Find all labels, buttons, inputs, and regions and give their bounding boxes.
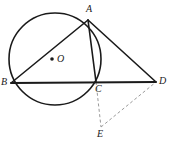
vertex-label-A: A [86,4,92,14]
segment-AC [88,20,96,82]
segment-BD [11,82,156,83]
center-dot-O [50,57,54,61]
segments-group [96,82,156,127]
circle-O [9,13,101,105]
vertex-label-C: C [95,84,102,94]
geometry-canvas [0,0,171,143]
vertex-label-D: D [159,76,166,86]
segment-ED [101,82,156,127]
solid-segments-group [11,20,156,83]
geometry-figure: A B C D E O [0,0,171,143]
vertex-label-E: E [97,129,103,139]
center-label-O: O [57,54,64,64]
segment-AB [11,20,88,83]
vertex-label-B: B [1,77,7,87]
